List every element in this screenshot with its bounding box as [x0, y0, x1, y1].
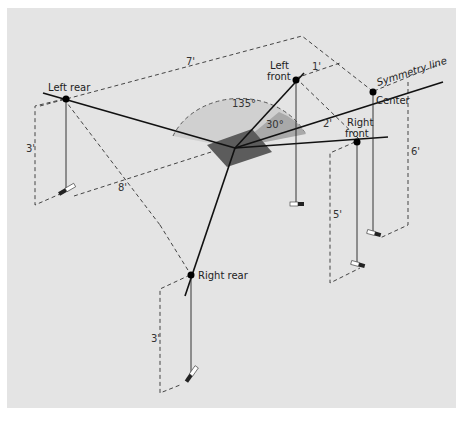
dim-6ft: 6' — [411, 146, 420, 157]
label-symmetry-line: Symmetry line — [375, 55, 448, 88]
speaker-diagram: Left rear Left front Center Right front … — [0, 0, 466, 431]
left-rear-speaker — [63, 96, 70, 103]
dim-3ft-left: 3' — [26, 143, 35, 154]
label-right-front-1: Right — [347, 117, 373, 128]
angle-30: 30° — [266, 119, 284, 130]
label-right-rear: Right rear — [198, 270, 249, 281]
label-right-front-2: front — [345, 128, 369, 139]
label-center: Center — [376, 95, 411, 106]
dim-1ft: 1' — [312, 61, 321, 72]
dim-2ft: 2' — [323, 118, 332, 129]
dim-7ft: 7' — [186, 56, 195, 67]
right-rear-speaker — [188, 272, 195, 279]
angle-135: 135° — [232, 98, 256, 109]
right-front-speaker — [354, 139, 361, 146]
label-left-rear: Left rear — [48, 82, 91, 93]
dim-5ft: 5' — [333, 209, 342, 220]
label-left-front-1: Left — [270, 60, 289, 71]
label-left-front-2: front — [267, 71, 291, 82]
left-front-speaker — [293, 77, 300, 84]
dim-8ft: 8' — [118, 182, 127, 193]
dim-3ft-right: 3' — [151, 333, 160, 344]
